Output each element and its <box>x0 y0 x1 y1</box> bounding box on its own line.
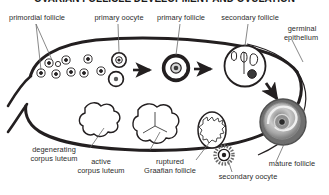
label-secondary-oocyte: secondary oocyte <box>206 173 290 181</box>
label-ruptured-graafian-follicle-line2: Graafian follicle <box>128 167 212 175</box>
label-secondary-follicle: secondary follicle <box>212 14 288 22</box>
primordial-follicle-cluster <box>37 55 105 78</box>
label-germinal-epithelium-line2: epithelium <box>272 34 329 42</box>
ovarian-cycle-diagram: OVARIAN FOLLICLE DEVELOPMENT AND OVULATI… <box>0 0 329 195</box>
label-primary-follicle: primary follicle <box>148 14 214 22</box>
label-mature-follicle: mature follicle <box>258 160 326 168</box>
degenerating-corpus-luteum <box>79 103 119 137</box>
ovulation-arrow <box>266 83 277 99</box>
secondary-follicle <box>225 46 266 87</box>
active-corpus-luteum <box>133 104 179 143</box>
label-primordial-follicle: primordial follicle <box>2 14 72 22</box>
secondary-oocyte <box>215 146 233 164</box>
primary-follicle <box>164 56 189 81</box>
mature-follicle <box>260 99 306 145</box>
primary-oocyte <box>109 53 127 87</box>
label-primary-oocyte: primary oocyte <box>84 14 154 22</box>
ruptured-graafian-follicle <box>198 112 226 148</box>
